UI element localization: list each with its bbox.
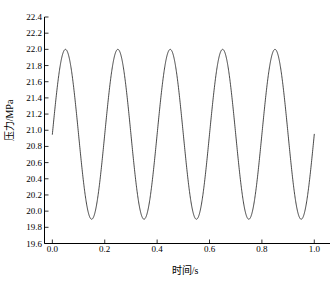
x-axis-label-text: 时间/s (172, 265, 199, 276)
x-tick-label: 0.2 (85, 245, 125, 254)
x-tick-label: 1.0 (294, 245, 334, 254)
pressure-time-chart: 压力/MPa 19.619.820.020.220.420.620.821.02… (0, 0, 336, 283)
plot-area (0, 0, 336, 283)
x-tick-label: 0.8 (242, 245, 282, 254)
x-tick-label: 0.6 (190, 245, 230, 254)
y-axis-ticks (45, 17, 49, 244)
x-axis-ticks (52, 240, 314, 244)
x-axis-tick-labels: 0.00.20.40.60.81.0 (0, 245, 336, 261)
x-axis-label: 时间/s (40, 262, 330, 277)
x-tick-label: 0.0 (32, 245, 72, 254)
x-tick-label: 0.4 (137, 245, 177, 254)
pressure-curve (52, 49, 314, 219)
